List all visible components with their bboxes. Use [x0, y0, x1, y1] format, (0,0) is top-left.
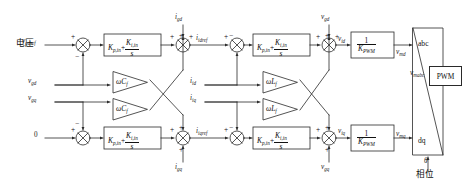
sign-cross-d-a: +: [170, 33, 174, 40]
sign-dec-q-c: +: [325, 146, 329, 153]
pi-inner-q-expression: Kp,in+Ki,ins: [257, 132, 288, 150]
signal-iiqref-label: iiqref: [196, 128, 207, 137]
transform-abc-label: abc: [418, 40, 429, 48]
wlf-top-label: ωLf: [266, 78, 277, 88]
sign-dec-d-a: +: [316, 33, 320, 40]
signal-vgq-ff-label: vgq: [321, 164, 329, 173]
sign-cross-d-b: +: [179, 32, 183, 39]
input-vgd-label: vgd: [28, 78, 36, 87]
sign-cross-q-a: +: [170, 126, 174, 133]
diagram-vector-layer: [0, 0, 463, 186]
signal-igd-label: igd: [175, 14, 182, 23]
transform-dq-label: dq: [418, 137, 426, 145]
signal-vgd-ff-label: vgd: [321, 14, 329, 23]
signal-igq-label: igq: [175, 164, 182, 173]
sign-cross-q-c: +: [179, 146, 183, 153]
pi-outer-d-expression: Kp,in+Ki,ins: [108, 39, 139, 57]
pi-inner-d-expression: Kp,in+Ki,ins: [257, 39, 288, 57]
sign-inner-d-minus: −: [229, 32, 233, 39]
signal-vmd-label: vmd: [396, 49, 405, 58]
signal-vid-label: vid: [338, 36, 345, 45]
pwm-gain-d-expression: 1KPWM: [357, 37, 376, 55]
block-diagram-canvas: 电压 相位 vgdref vgd vgq 0 + − + − + + + + +…: [0, 0, 463, 186]
pwm-gain-q-expression: 1KPWM: [357, 130, 376, 148]
sign-inner-d-plus: +: [224, 33, 228, 40]
pwm-modulator-label: PWM: [437, 72, 455, 81]
sign-dec-d-b: +: [325, 32, 329, 39]
sign-inner-q-plus: +: [224, 126, 228, 133]
signal-theta-label: θ: [424, 158, 428, 165]
wcf-bottom-label: ωCf: [116, 105, 128, 115]
sign-cross-d-c: +: [189, 33, 193, 40]
signal-iidref-label: iidref: [196, 35, 207, 44]
wlf-bottom-label: ωLf: [266, 105, 277, 115]
signal-vmabc-label: vmabc: [410, 70, 424, 79]
input-vgq-label: vgq: [28, 95, 36, 104]
wcf-top-label: ωCf: [116, 78, 128, 88]
phase-annotation: 相位: [416, 170, 434, 179]
input-zero-label: 0: [34, 132, 38, 139]
signal-iid-label: iid: [190, 78, 196, 87]
sign-outer-q-minus: −: [75, 120, 79, 127]
pwm-modulator-box[interactable]: PWM: [429, 66, 462, 86]
pi-outer-q-expression: Kp,in+Ki,ins: [108, 132, 139, 150]
sign-cross-q-b: +: [179, 124, 183, 131]
sign-outer-d-minus: −: [75, 53, 79, 60]
signal-viq-label: viq: [338, 128, 345, 137]
input-vgdref-label: vgdref: [22, 38, 36, 47]
signal-iiq-label: iiq: [190, 95, 196, 104]
sign-outer-d-plus: +: [71, 33, 75, 40]
sign-dec-q-a: +: [316, 126, 320, 133]
signal-vmq-label: vmq: [396, 131, 405, 140]
sign-dec-q-b: +: [325, 124, 329, 131]
sign-inner-q-minus: −: [229, 124, 233, 131]
